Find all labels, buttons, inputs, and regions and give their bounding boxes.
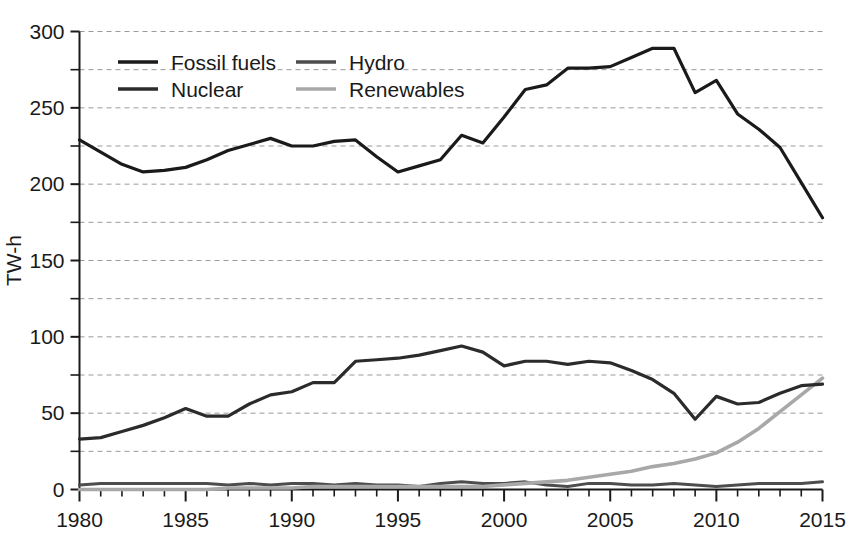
series-line-nuclear xyxy=(80,346,823,439)
y-tick-label: 250 xyxy=(29,96,64,119)
x-tick-label: 2005 xyxy=(587,508,634,531)
legend-label: Renewables xyxy=(349,78,465,101)
legend-item-fossil-fuels: Fossil fuels xyxy=(118,51,276,74)
data-series xyxy=(80,48,823,489)
y-axis-title: TW-h xyxy=(2,235,25,286)
y-tick-label: 200 xyxy=(29,172,64,195)
series-line-renewables xyxy=(80,378,823,489)
x-tick-label: 1990 xyxy=(268,508,315,531)
x-axis-tick-labels: 19801985199019952000200520102015 xyxy=(56,508,846,531)
legend-label: Hydro xyxy=(349,51,405,74)
legend-item-renewables: Renewables xyxy=(296,78,465,101)
x-tick-label: 1985 xyxy=(162,508,209,531)
x-tick-label: 2000 xyxy=(481,508,528,531)
legend-label: Nuclear xyxy=(171,78,243,101)
legend-label: Fossil fuels xyxy=(171,51,276,74)
y-tick-label: 300 xyxy=(29,20,64,43)
y-axis-title-text: TW-h xyxy=(2,235,25,286)
chart-legend: Fossil fuelsHydroNuclearRenewables xyxy=(118,51,465,101)
x-tick-label: 1980 xyxy=(56,508,103,531)
x-tick-label: 2010 xyxy=(693,508,740,531)
y-tick-label: 150 xyxy=(29,249,64,272)
x-tick-label: 1995 xyxy=(375,508,422,531)
y-axis-tick-labels: 050100150200250300 xyxy=(29,20,64,501)
y-tick-label: 0 xyxy=(53,478,65,501)
legend-item-hydro: Hydro xyxy=(296,51,405,74)
chart-container: 050100150200250300 198019851990199520002… xyxy=(0,0,855,544)
y-axis-ticks xyxy=(71,32,80,490)
y-tick-label: 50 xyxy=(41,401,64,424)
y-tick-label: 100 xyxy=(29,325,64,348)
x-tick-label: 2015 xyxy=(799,508,846,531)
line-chart: 050100150200250300 198019851990199520002… xyxy=(0,0,855,544)
legend-item-nuclear: Nuclear xyxy=(118,78,243,101)
